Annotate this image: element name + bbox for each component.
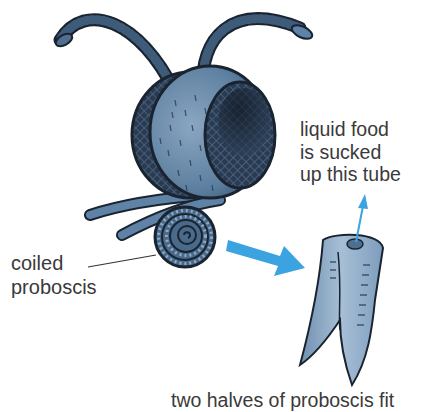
label-line: up this tube — [300, 163, 401, 186]
coiled-proboscis-label: coiled proboscis — [11, 251, 97, 299]
label-line: coiled — [11, 251, 97, 275]
left-antenna — [54, 20, 175, 92]
label-line: is sucked — [300, 141, 401, 164]
liquid-food-label: liquid food is sucked up this tube — [300, 118, 401, 186]
label-line: liquid food — [300, 118, 401, 141]
blue-arrow-icon — [226, 240, 305, 276]
proboscis-diagram — [0, 0, 422, 412]
coiled-pointer-line — [88, 255, 156, 267]
label-line: proboscis — [11, 275, 97, 299]
two-halves-label: two halves of proboscis fit — [171, 388, 394, 412]
tube-opening — [347, 239, 363, 249]
insect-head — [132, 66, 275, 198]
coiled-proboscis — [155, 207, 215, 267]
proboscis-tube — [300, 235, 383, 385]
